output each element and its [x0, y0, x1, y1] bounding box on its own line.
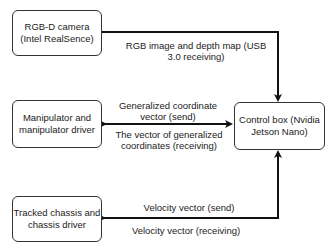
chassis-send-text: Velocity vector (send)	[144, 202, 235, 213]
manip-send-line1: Generalized coordinate	[119, 100, 217, 111]
manip-recv-line2: coordinates (receiving)	[121, 140, 217, 151]
manipulator-send-label: Generalized coordinate vector (send)	[108, 100, 228, 122]
manip-recv-line1: The vector of generalized	[115, 129, 222, 140]
chassis-recv-label: Velocity vector (receiving)	[126, 225, 246, 236]
camera-label-1: RGB-D camera	[25, 21, 90, 32]
control-box-node: Control box (Nvidia Jetson Nano)	[234, 102, 325, 150]
manipulator-node: Manipulator and manipulator driver	[12, 100, 102, 148]
camera-edge-line1: RGB image and depth map (USB	[126, 40, 266, 51]
manipulator-label-2: manipulator driver	[19, 124, 95, 135]
chassis-label-1: Tracked chassis and	[14, 207, 101, 218]
chassis-label-2: chassis driver	[28, 219, 86, 230]
camera-label-2: (Intel RealSence)	[20, 33, 93, 44]
manipulator-recv-label: The vector of generalized coordinates (r…	[104, 129, 234, 151]
chassis-node: Tracked chassis and chassis driver	[12, 196, 102, 242]
camera-node: RGB-D camera (Intel RealSence)	[12, 10, 102, 56]
chassis-send-label: Velocity vector (send)	[134, 202, 244, 213]
chassis-recv-text: Velocity vector (receiving)	[132, 225, 240, 236]
manip-send-line2: vector (send)	[140, 111, 195, 122]
control-label-1: Control box (Nvidia	[239, 114, 320, 125]
control-label-2: Jetson Nano)	[251, 126, 308, 137]
camera-edge-label: RGB image and depth map (USB 3.0 receivi…	[116, 40, 276, 62]
camera-edge-line2: 3.0 receiving)	[167, 51, 224, 62]
manipulator-label-1: Manipulator and	[23, 112, 91, 123]
